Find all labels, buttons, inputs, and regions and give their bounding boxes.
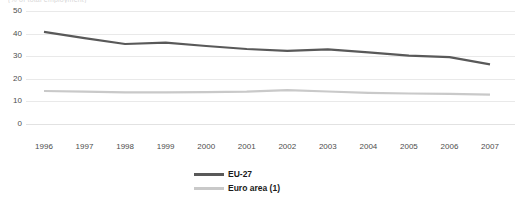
legend-swatch-euro-area [194, 187, 224, 190]
line-chart: (% of total employment) 01020304050 1996… [0, 0, 518, 199]
series-line-eu-27 [44, 32, 490, 65]
x-axis-label-2004: 2004 [348, 142, 388, 152]
x-axis-label-1997: 1997 [65, 142, 105, 152]
x-axis-label-2000: 2000 [186, 142, 226, 152]
legend-swatch-eu-27 [194, 173, 224, 176]
x-axis-label-1998: 1998 [105, 142, 145, 152]
legend-item-eu-27[interactable]: EU-27 [0, 167, 518, 181]
x-axis-label-2005: 2005 [389, 142, 429, 152]
legend-label-1: Euro area (1) [228, 183, 280, 193]
plot-area: 01020304050 [0, 0, 518, 140]
x-axis-label-2001: 2001 [227, 142, 267, 152]
x-axis-label-1996: 1996 [24, 142, 64, 152]
x-axis-labels: 1996199719981999200020012002200320042005… [0, 140, 518, 156]
x-axis-label-2007: 2007 [470, 142, 510, 152]
legend-label-0: EU-27 [228, 169, 252, 179]
x-axis-label-2002: 2002 [267, 142, 307, 152]
legend-item-euro-area-1[interactable]: Euro area (1) [0, 181, 518, 195]
x-axis-label-2003: 2003 [308, 142, 348, 152]
x-axis-label-1999: 1999 [146, 142, 186, 152]
x-axis-label-2006: 2006 [430, 142, 470, 152]
series-line-euro-area-1 [44, 90, 490, 95]
series-layer [0, 0, 518, 140]
chart-legend: EU-27Euro area (1) [0, 163, 518, 199]
